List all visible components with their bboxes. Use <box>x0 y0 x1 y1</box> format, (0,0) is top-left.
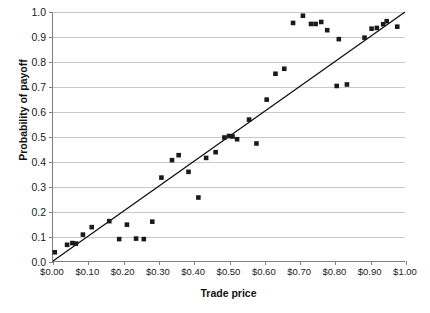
x-tick-mark <box>124 261 125 265</box>
x-tick-mark <box>159 261 160 265</box>
data-point <box>362 35 367 40</box>
data-point <box>313 22 318 27</box>
data-point <box>369 26 374 31</box>
y-tick-label: 1.0 <box>8 6 46 18</box>
data-point <box>301 13 306 18</box>
x-tick-label: $0.90 <box>358 266 382 277</box>
x-tick-mark <box>265 261 266 265</box>
y-tick-label: 0.5 <box>8 131 46 143</box>
x-tick-label: $0.00 <box>40 266 64 277</box>
x-tick-label: $0.70 <box>287 266 311 277</box>
data-point <box>375 26 380 31</box>
data-point <box>309 22 314 27</box>
x-tick-mark <box>406 261 407 265</box>
data-point <box>204 156 209 161</box>
scatter-chart: Probability of payoff 0.00.10.20.30.40.5… <box>0 0 430 313</box>
y-tick-label: 0.6 <box>8 106 46 118</box>
data-point <box>176 153 181 158</box>
data-point <box>196 195 201 200</box>
data-point <box>142 237 147 242</box>
y-tick-label: 0.4 <box>8 156 46 168</box>
data-point <box>52 250 57 255</box>
data-point <box>186 170 191 175</box>
data-point <box>134 236 139 241</box>
data-point <box>65 243 70 248</box>
data-point <box>222 135 227 140</box>
y-tick-label: 0.7 <box>8 81 46 93</box>
x-tick-label: $0.10 <box>75 266 99 277</box>
data-point <box>337 37 342 42</box>
data-point <box>291 21 296 26</box>
x-tick-mark <box>335 261 336 265</box>
data-point <box>159 175 164 180</box>
data-point <box>395 24 400 29</box>
data-point <box>117 237 122 242</box>
y-tick-label: 0.1 <box>8 231 46 243</box>
data-point <box>247 117 252 122</box>
data-point <box>345 82 350 87</box>
x-tick-mark <box>88 261 89 265</box>
data-point <box>264 97 269 102</box>
data-point <box>325 28 330 33</box>
data-point-group <box>52 13 399 254</box>
x-tick-label: $1.00 <box>393 266 417 277</box>
x-tick-mark <box>230 261 231 265</box>
y-tick-label: 0.9 <box>8 31 46 43</box>
x-tick-label: $0.20 <box>111 266 135 277</box>
x-tick-mark <box>194 261 195 265</box>
x-tick-mark <box>371 261 372 265</box>
x-tick-label: $0.30 <box>146 266 170 277</box>
data-point <box>235 137 240 142</box>
data-point <box>213 150 218 155</box>
data-point <box>150 219 155 224</box>
data-point <box>384 19 389 24</box>
y-tick-label: 0.2 <box>8 206 46 218</box>
x-tick-label: $0.80 <box>323 266 347 277</box>
data-point <box>273 71 278 76</box>
data-point <box>254 141 259 146</box>
y-tick-label: 0.8 <box>8 56 46 68</box>
data-point <box>334 84 339 89</box>
data-point <box>81 232 86 237</box>
data-layer <box>53 12 405 261</box>
x-axis-title: Trade price <box>52 287 405 299</box>
data-point <box>107 219 112 224</box>
x-tick-label: $0.60 <box>252 266 276 277</box>
y-tick-label: 0.3 <box>8 181 46 193</box>
data-point <box>89 225 94 230</box>
data-point <box>125 222 130 227</box>
x-tick-mark <box>300 261 301 265</box>
x-tick-mark <box>53 261 54 265</box>
data-point <box>170 158 175 163</box>
plot-area <box>52 12 405 262</box>
x-tick-label: $0.40 <box>181 266 205 277</box>
data-point <box>282 66 287 71</box>
data-point <box>319 20 324 25</box>
x-tick-label: $0.50 <box>217 266 241 277</box>
data-point <box>230 134 235 139</box>
data-point <box>74 241 79 246</box>
